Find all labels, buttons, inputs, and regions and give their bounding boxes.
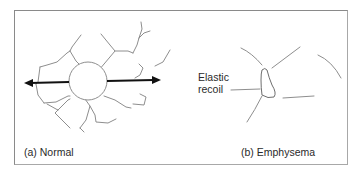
arrow-left-head-icon — [24, 79, 33, 87]
collapsed-airway — [261, 69, 275, 98]
elastic-recoil-line1: Elastic — [198, 71, 229, 83]
alveolus-normal — [69, 62, 107, 100]
elastic-recoil-line2: recoil — [198, 83, 229, 95]
panel-label-normal: (a) Normal — [24, 146, 74, 158]
panel-label-emphysema: (b) Emphysema — [241, 146, 315, 158]
panel-emphysema-fibers — [231, 47, 341, 122]
elastic-recoil-label: Elastic recoil — [198, 71, 229, 95]
arrow-right-head-icon — [152, 76, 161, 84]
